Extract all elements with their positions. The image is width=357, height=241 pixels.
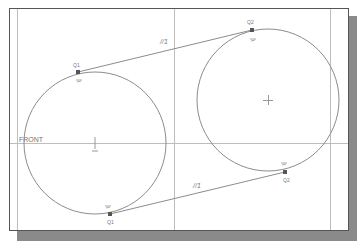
tangent-label: Q1 (107, 219, 114, 225)
tangent-point-handle[interactable] (76, 70, 80, 74)
tangent-label: Q2 (247, 19, 254, 25)
tangent-point-handle[interactable] (250, 28, 254, 32)
lower-tangent-line[interactable] (110, 172, 285, 214)
front-datum-label: FRONT (19, 136, 44, 143)
sketch-canvas[interactable]: FRONT //1 //1 Q1 Q2 Q1 Q2 (0, 0, 357, 241)
tangent-constraint-icon[interactable] (250, 39, 256, 41)
tangent-constraint-icon[interactable] (281, 163, 287, 165)
tangent-constraint-icon[interactable] (76, 80, 82, 82)
tangent-point-handle[interactable] (108, 212, 112, 216)
upper-tangent-line[interactable] (78, 30, 252, 72)
tangent-label: Q2 (283, 177, 290, 183)
tangent-constraint-icon[interactable] (105, 206, 111, 208)
tangent-point-handle[interactable] (283, 170, 287, 174)
parallel-constraint-lower[interactable]: //1 (192, 182, 201, 189)
parallel-constraint-upper[interactable]: //1 (159, 38, 168, 45)
tangent-label: Q1 (73, 62, 80, 68)
right-center-mark (263, 95, 273, 105)
